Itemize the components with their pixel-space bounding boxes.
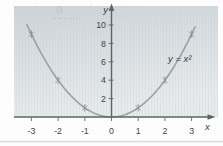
- y-tick-label: 2: [101, 94, 106, 104]
- graph-figure: ' 0 / -3-2-10123246810 y x y = x²: [0, 0, 223, 146]
- y-tick-label: 4: [101, 75, 106, 85]
- x-tick-label: -3: [27, 126, 35, 136]
- x-axis-label: x: [204, 121, 211, 132]
- ghost-mark: /: [90, 1, 92, 8]
- ghost-zero-text: 0: [56, 4, 62, 16]
- y-tick-label: 10: [96, 20, 106, 30]
- x-tick-label: 1: [136, 126, 141, 136]
- parabola-chart-canvas: ' 0 / -3-2-10123246810 y x y = x²: [0, 0, 223, 146]
- x-tick-label: 0: [109, 126, 114, 136]
- x-tick-label: -1: [81, 126, 89, 136]
- x-tick-label: -2: [54, 126, 62, 136]
- equation-label: y = x²: [167, 53, 192, 64]
- y-tick-label: 8: [101, 39, 106, 49]
- x-tick-label: 3: [189, 126, 194, 136]
- ghost-mark: ': [35, 1, 36, 8]
- x-tick-label: 2: [162, 126, 167, 136]
- y-tick-label: 6: [101, 57, 106, 67]
